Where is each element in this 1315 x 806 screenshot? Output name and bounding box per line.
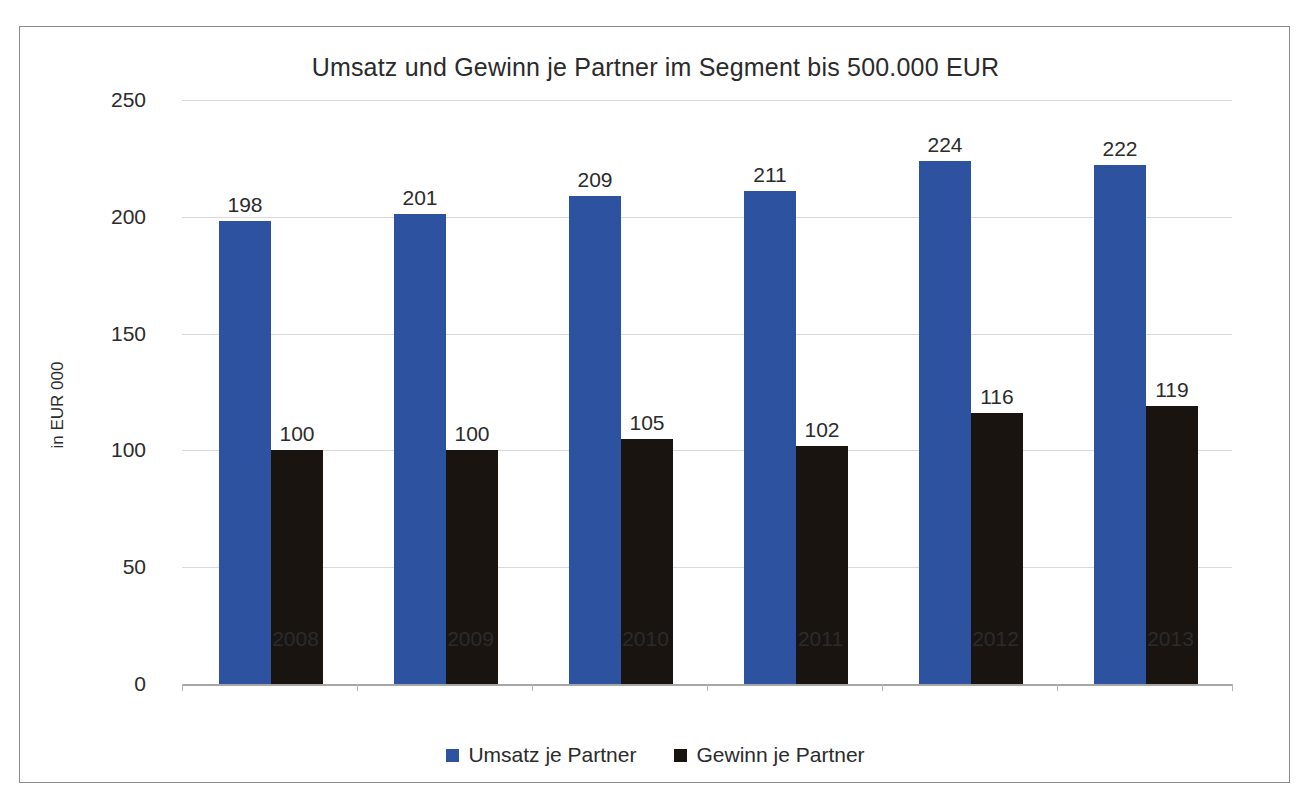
bar-value-label: 224: [900, 133, 990, 157]
x-axis-tick-mark: [707, 684, 708, 691]
bar[interactable]: [1094, 165, 1146, 684]
x-axis-tick-mark: [1232, 684, 1233, 691]
bar-value-label: 116: [952, 385, 1042, 409]
y-axis-tick-label: 250: [26, 88, 146, 112]
x-axis-tick-mark: [1057, 684, 1058, 691]
bar[interactable]: [569, 196, 621, 684]
bar-value-label: 211: [725, 163, 815, 187]
legend-swatch-icon: [674, 749, 687, 762]
x-axis-tick-mark: [182, 684, 183, 691]
legend-item[interactable]: Gewinn je Partner: [674, 743, 864, 767]
x-axis-tick-mark: [357, 684, 358, 691]
legend-swatch-icon: [446, 749, 459, 762]
bar-value-label: 198: [200, 193, 290, 217]
bar-value-label: 119: [1127, 378, 1217, 402]
bar-group: 198100: [182, 100, 357, 684]
x-axis-tick-label: 2012: [906, 627, 1086, 651]
x-axis-tick-label: 2010: [556, 627, 736, 651]
bar[interactable]: [919, 161, 971, 684]
bar-group: 211102: [707, 100, 882, 684]
x-axis-tick-mark: [532, 684, 533, 691]
bar-group: 222119: [1057, 100, 1232, 684]
legend-label: Gewinn je Partner: [696, 743, 864, 767]
bar-value-label: 102: [777, 418, 867, 442]
x-axis-tick-label: 2009: [381, 627, 561, 651]
bar-value-label: 100: [427, 422, 517, 446]
bar-value-label: 100: [252, 422, 342, 446]
bar-value-label: 201: [375, 186, 465, 210]
y-axis-tick-label: 50: [26, 555, 146, 579]
y-axis-tick-label: 0: [26, 672, 146, 696]
x-axis-tick-label: 2011: [731, 627, 911, 651]
y-axis-tick-label: 100: [26, 438, 146, 462]
bar-group: 201100: [357, 100, 532, 684]
y-axis-tick-label: 200: [26, 205, 146, 229]
bar-value-label: 209: [550, 168, 640, 192]
plot-area: 050100150200250 198100201100209105211102…: [182, 100, 1232, 684]
legend-label: Umsatz je Partner: [468, 743, 636, 767]
bar-group: 224116: [882, 100, 1057, 684]
bar[interactable]: [219, 221, 271, 684]
chart-frame: Umsatz und Gewinn je Partner im Segment …: [19, 26, 1290, 783]
bar[interactable]: [394, 214, 446, 684]
chart-title: Umsatz und Gewinn je Partner im Segment …: [20, 53, 1291, 82]
bar-groups: 198100201100209105211102224116222119: [182, 100, 1232, 684]
bar-group: 209105: [532, 100, 707, 684]
bar-value-label: 105: [602, 411, 692, 435]
x-axis-tick-label: 2013: [1081, 627, 1261, 651]
chart-legend: Umsatz je PartnerGewinn je Partner: [20, 743, 1291, 767]
x-axis-tick-label: 2008: [206, 627, 386, 651]
bar-value-label: 222: [1075, 137, 1165, 161]
x-axis-tick-mark: [882, 684, 883, 691]
legend-item[interactable]: Umsatz je Partner: [446, 743, 636, 767]
y-axis-tick-label: 150: [26, 322, 146, 346]
